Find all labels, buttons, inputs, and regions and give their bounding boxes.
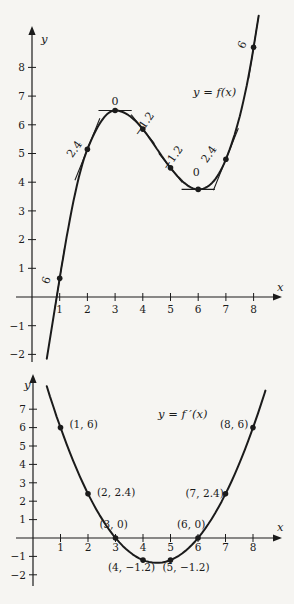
x-tick-label: 4 bbox=[139, 303, 146, 315]
y-tick-label: −2 bbox=[11, 569, 26, 581]
x-tick-label: 4 bbox=[140, 541, 147, 553]
y-tick-label: −1 bbox=[10, 320, 25, 332]
y-tick-label: −2 bbox=[10, 348, 25, 360]
x-tick-label: 6 bbox=[195, 541, 202, 553]
x-tick-label: 5 bbox=[167, 303, 174, 315]
slope-label: 6 bbox=[39, 275, 54, 286]
y-tick-label: 4 bbox=[19, 458, 26, 470]
y-tick-label: 1 bbox=[18, 262, 25, 274]
point-label: (3, 0) bbox=[100, 518, 128, 530]
data-point bbox=[85, 146, 91, 152]
y-tick-label: 3 bbox=[18, 205, 25, 217]
x-tick-label: 2 bbox=[84, 303, 91, 315]
point-label: (1, 6) bbox=[70, 418, 98, 430]
x-axis-label: x bbox=[277, 520, 284, 534]
data-point bbox=[195, 535, 201, 541]
x-tick-label: 5 bbox=[167, 541, 174, 553]
data-point bbox=[250, 425, 256, 431]
slope-label: 0 bbox=[193, 166, 200, 179]
data-point bbox=[195, 187, 201, 193]
x-tick-label: 2 bbox=[85, 541, 92, 553]
y-axis-arrow-icon bbox=[28, 26, 35, 35]
x-tick-label: 1 bbox=[56, 303, 63, 315]
point-label: (2, 2.4) bbox=[97, 486, 135, 498]
function-and-derivative-figure: xy12345678−2−11234567862.40−1.2−1.202.46… bbox=[0, 0, 294, 604]
data-point bbox=[57, 276, 63, 282]
y-tick-label: 2 bbox=[19, 495, 26, 507]
data-point bbox=[112, 108, 118, 114]
y-tick-label: 7 bbox=[19, 403, 26, 415]
x-tick-label: 7 bbox=[222, 541, 229, 553]
x-tick-label: 8 bbox=[250, 303, 257, 315]
y-tick-label: 6 bbox=[19, 421, 26, 433]
y-axis-label: y bbox=[23, 378, 31, 392]
y-tick-label: 3 bbox=[19, 477, 26, 489]
slope-label: 2.4 bbox=[199, 143, 220, 165]
y-tick-label: 7 bbox=[18, 90, 25, 102]
x-tick-label: 7 bbox=[223, 303, 230, 315]
y-axis-label: y bbox=[40, 32, 48, 46]
data-point bbox=[251, 45, 257, 51]
chart-title: y = f ′(x) bbox=[157, 407, 207, 421]
y-tick-label: 2 bbox=[18, 233, 25, 245]
y-tick-label: 4 bbox=[18, 176, 25, 188]
point-label: (4, −1.2) bbox=[108, 561, 155, 573]
slope-label: −1.2 bbox=[131, 109, 157, 138]
y-tick-label: 5 bbox=[19, 440, 26, 452]
x-tick-label: 6 bbox=[195, 303, 202, 315]
chart-title: y = f(x) bbox=[192, 85, 236, 99]
point-label: (6, 0) bbox=[177, 518, 205, 530]
slope-label: 6 bbox=[235, 39, 250, 51]
chart-f-prime-of-x: xy12345678−2−11234567(1, 6)(2, 2.4)(3, 0… bbox=[11, 374, 284, 586]
curve-f-prime bbox=[47, 386, 266, 563]
y-tick-label: 8 bbox=[18, 61, 25, 73]
x-tick-label: 1 bbox=[57, 541, 64, 553]
x-tick-label: 3 bbox=[112, 303, 119, 315]
y-tick-label: −1 bbox=[11, 550, 26, 562]
data-point bbox=[58, 425, 64, 431]
point-label: (7, 2.4) bbox=[186, 487, 224, 499]
point-label: (8, 6) bbox=[220, 418, 248, 430]
data-point bbox=[85, 491, 91, 497]
slope-label: −1.2 bbox=[160, 143, 186, 172]
y-tick-label: 5 bbox=[18, 147, 25, 159]
chart-f-of-x: xy12345678−2−11234567862.40−1.2−1.202.46… bbox=[10, 16, 284, 362]
x-tick-label: 8 bbox=[250, 541, 257, 553]
x-axis-arrow-icon bbox=[273, 293, 282, 300]
point-label: (5, −1.2) bbox=[163, 561, 210, 573]
x-axis-arrow-icon bbox=[273, 534, 282, 541]
x-axis-label: x bbox=[277, 280, 284, 294]
x-tick-label: 3 bbox=[112, 541, 119, 553]
y-tick-label: 1 bbox=[19, 513, 26, 525]
slope-label: 2.4 bbox=[64, 138, 85, 160]
y-tick-label: 6 bbox=[18, 119, 25, 131]
slope-label: 0 bbox=[112, 95, 119, 108]
data-point bbox=[223, 156, 229, 162]
data-point bbox=[113, 535, 119, 541]
figure-canvas: xy12345678−2−11234567862.40−1.2−1.202.46… bbox=[0, 0, 294, 604]
